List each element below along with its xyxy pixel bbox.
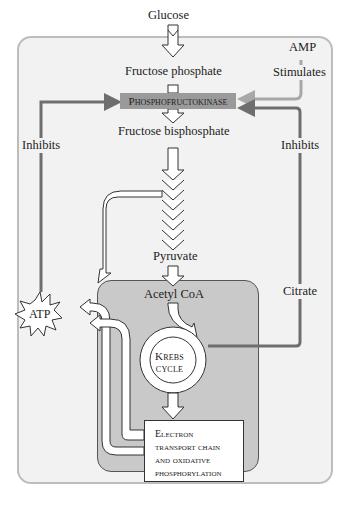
node-fructose-bisphosphate: Fructose bisphosphate [118, 124, 229, 139]
node-acetyl-coa: Acetyl CoA [144, 287, 204, 302]
node-electron-transport-chain: Electron transport chain and oxidative p… [144, 420, 244, 482]
node-krebs-cycle: Krebs cycle [155, 350, 184, 374]
node-fructose-phosphate: Fructose phosphate [125, 64, 222, 79]
node-phosphofructokinase: Phosphofructokinase [120, 93, 236, 109]
edge-label-inhibits-right: Inhibits [281, 138, 319, 153]
node-atp: ATP [29, 307, 50, 322]
edge-label-stimulates: Stimulates [273, 65, 326, 80]
node-glucose: Glucose [148, 8, 189, 23]
edge-label-inhibits-left: Inhibits [22, 138, 60, 153]
node-citrate: Citrate [283, 284, 317, 299]
node-amp: AMP [289, 40, 316, 55]
node-pyruvate: Pyruvate [153, 249, 197, 264]
